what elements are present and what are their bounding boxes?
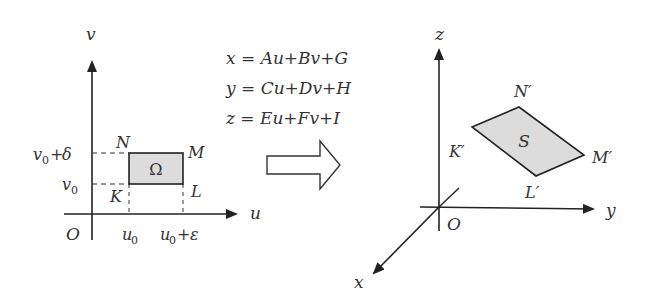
x-axis-back (439, 188, 459, 207)
origin-label: O (66, 224, 80, 244)
y-axis (420, 207, 593, 209)
x-axis (374, 207, 439, 273)
corner-l-prime-label: L′ (524, 183, 540, 202)
equation-x: x = Au+Bv+G (226, 48, 348, 68)
x-axis-label: x (354, 272, 364, 292)
tick-u0: u 0 (122, 225, 138, 247)
z-axis-label: z (434, 24, 445, 44)
tick-u0-eps: u 0 + ε (160, 225, 199, 247)
svg-text:v: v (62, 175, 71, 194)
svg-text:+: + (177, 225, 190, 244)
svg-text:0: 0 (131, 234, 138, 247)
tick-v0-delta: v 0 + δ (33, 145, 72, 167)
u-axis-label: u (250, 203, 261, 223)
corner-k-label: K (109, 187, 123, 206)
svg-text:0: 0 (169, 234, 176, 247)
y-axis-label: y (605, 200, 616, 220)
right-hollow-arrow-icon (267, 141, 340, 189)
svg-text:v: v (33, 145, 42, 164)
equation-y: y = Cu+Dv+H (225, 78, 352, 98)
origin-label-3d: O (447, 214, 461, 234)
corner-k-prime-label: K′ (448, 142, 465, 161)
corner-l-label: L (190, 182, 202, 201)
corner-m-prime-label: M′ (591, 148, 612, 167)
svg-text:0: 0 (71, 184, 78, 197)
corner-n-label: N (115, 133, 131, 152)
v-axis-label: v (86, 24, 96, 44)
surface-s-label: S (518, 131, 530, 151)
mapping-equations: x = Au+Bv+G y = Cu+Dv+H z = Eu+Fv+I (225, 48, 352, 128)
svg-text:0: 0 (42, 154, 49, 167)
transformation-diagram: Ω v u O N M K L v 0 + δ v 0 u 0 u 0 + ε (0, 0, 657, 301)
corner-m-label: M (187, 143, 205, 162)
svg-text:δ: δ (62, 145, 72, 164)
tick-v0: v 0 (62, 175, 78, 197)
equation-z: z = Eu+Fv+I (225, 108, 340, 128)
svg-text:ε: ε (190, 225, 199, 244)
xyz-space: S z y x O N′ K′ M′ L′ (354, 24, 616, 292)
region-omega-label: Ω (149, 160, 162, 179)
corner-n-prime-label: N′ (513, 82, 532, 101)
